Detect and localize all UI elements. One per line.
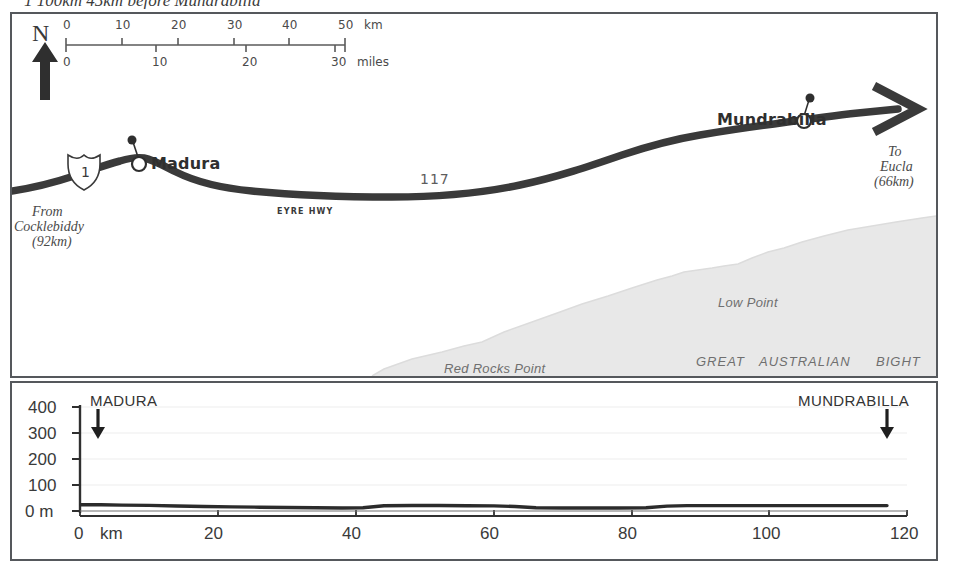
- label-low-point: Low Point: [718, 295, 778, 310]
- scale-mile-tick-0: 0: [63, 55, 71, 69]
- clipped-heading: 1 100km 45km before Mundrabilla: [24, 0, 624, 9]
- scale-mile-tick-10: 10: [152, 55, 167, 69]
- y-tick-label-0m: 0 m: [25, 502, 53, 522]
- scale-km-tick-50: 50: [338, 18, 353, 32]
- scale-km-tick-0: 0: [63, 18, 71, 32]
- great-australian-bight-shape: [372, 216, 936, 376]
- x-tick-label-60: 60: [480, 524, 499, 544]
- x-tick-label-0: 0: [74, 524, 83, 544]
- label-bight-australian: AUSTRALIAN: [759, 354, 851, 369]
- figure-root: 1 100km 45km before Mundrabilla: [0, 0, 959, 571]
- scale-miles-unit: miles: [357, 55, 389, 69]
- map-panel: N 0 10 20 30 40 50 km 0 10 20 30 miles 1…: [10, 12, 938, 378]
- label-bight-bight: BIGHT: [876, 354, 921, 369]
- x-axis-unit-km: km: [100, 524, 123, 544]
- x-tick-label-80: 80: [618, 524, 637, 544]
- origin-label-line3: (92km): [32, 234, 72, 249]
- scale-km-unit: km: [364, 18, 383, 32]
- y-tick-label-200: 200: [28, 450, 56, 470]
- label-bight-great: GREAT: [696, 354, 745, 369]
- highway-name-label: EYRE HWY: [277, 207, 334, 216]
- north-arrow-icon: [32, 42, 58, 100]
- map-label-madura: Madura: [151, 154, 220, 173]
- map-graphics: [12, 14, 936, 376]
- annotation-label-madura: MADURA: [90, 392, 157, 409]
- scale-km-tick-20: 20: [171, 18, 186, 32]
- destination-label-line2: Eucla: [880, 159, 913, 174]
- destination-label-line1: To: [888, 144, 902, 159]
- y-tick-label-300: 300: [28, 424, 56, 444]
- north-label: N: [32, 20, 49, 47]
- y-tick-label-100: 100: [28, 476, 56, 496]
- y-tick-label-400: 400: [28, 398, 56, 418]
- mundrabilla-marker-arrow-icon: [880, 409, 894, 439]
- elevation-profile-chart: [12, 383, 936, 559]
- madura-marker-arrow-icon: [91, 409, 105, 439]
- annotation-label-mundrabilla: MUNDRABILLA: [798, 392, 909, 409]
- chart-gridlines: [80, 407, 907, 485]
- scale-mile-tick-30: 30: [331, 55, 346, 69]
- highway-distance-label: 117: [420, 171, 450, 187]
- origin-label-line2: Cocklebiddy: [14, 219, 84, 234]
- scale-km-tick-40: 40: [282, 18, 297, 32]
- scale-mile-tick-20: 20: [242, 55, 257, 69]
- elevation-trace: [81, 505, 887, 508]
- x-tick-label-120: 120: [890, 524, 918, 544]
- x-tick-label-40: 40: [342, 524, 361, 544]
- label-red-rocks-point: Red Rocks Point: [444, 361, 545, 376]
- x-tick-label-20: 20: [204, 524, 223, 544]
- x-tick-label-100: 100: [752, 524, 780, 544]
- map-marker-madura[interactable]: [128, 136, 147, 172]
- scale-km-tick-10: 10: [115, 18, 130, 32]
- highway-shield-number: 1: [81, 164, 90, 180]
- scale-bar: [66, 38, 345, 52]
- scale-km-tick-30: 30: [227, 18, 242, 32]
- elevation-profile-panel: 400 300 200 100 0 m 0 km 20 40 60 80 100…: [10, 381, 938, 561]
- map-label-mundrabilla: Mundrabilla: [717, 110, 827, 129]
- origin-label-line1: From: [32, 204, 63, 219]
- destination-label-line3: (66km): [874, 174, 914, 189]
